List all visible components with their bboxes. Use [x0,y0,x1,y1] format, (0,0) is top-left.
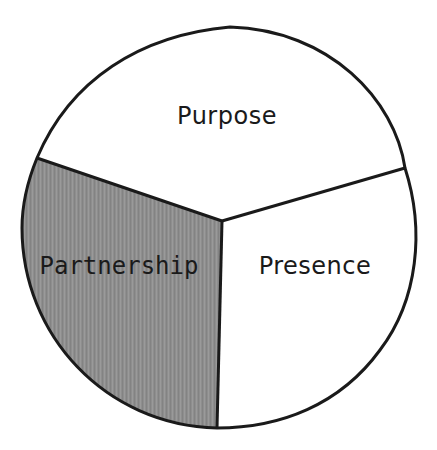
pie-diagram [0,0,437,450]
slice-partnership [22,158,222,428]
label-partnership: Partnership [40,252,199,280]
label-purpose: Purpose [177,102,277,130]
divider-right [222,168,405,221]
label-presence: Presence [259,252,372,280]
